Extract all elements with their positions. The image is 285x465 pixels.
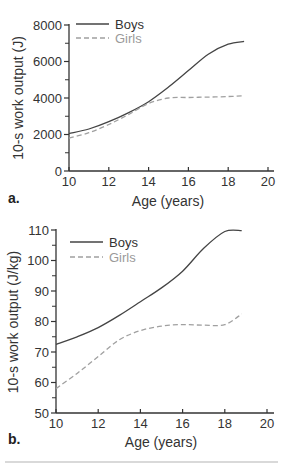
- y-tick-label: 4000: [33, 91, 62, 106]
- chart-b-x-ticks: 101214161820: [49, 409, 274, 431]
- chart-b: 5060708090100110 101214161820 10-s work …: [5, 223, 274, 451]
- y-tick-label: 80: [35, 314, 49, 329]
- legend-girls-label: Girls: [109, 250, 136, 265]
- x-tick-label: 18: [218, 416, 232, 431]
- figure: 02000400060008000 101214161820 10-s work…: [0, 0, 285, 465]
- x-tick-label: 12: [102, 174, 116, 189]
- x-tick-label: 18: [221, 174, 235, 189]
- y-tick-label: 8000: [33, 18, 62, 33]
- x-tick-label: 14: [133, 416, 147, 431]
- chart-b-y-label: 10-s work output (J/kg): [5, 251, 21, 393]
- chart-a-x-ticks: 101214161820: [62, 167, 275, 189]
- chart-b-girls-line: [56, 314, 242, 389]
- legend-girls-label: Girls: [115, 31, 142, 46]
- y-tick-label: 90: [35, 284, 49, 299]
- y-tick-label: 70: [35, 345, 49, 360]
- chart-a-boys-line: [69, 41, 244, 133]
- x-tick-label: 20: [261, 174, 275, 189]
- y-tick-label: 2000: [33, 127, 62, 142]
- chart-a: 02000400060008000 101214161820 10-s work…: [8, 17, 275, 209]
- chart-b-panel-label: b.: [8, 431, 20, 447]
- legend-boys-label: Boys: [115, 17, 144, 32]
- chart-a-girls-line: [69, 96, 244, 138]
- chart-b-x-label: Age (years): [125, 434, 197, 450]
- chart-a-y-ticks: 02000400060008000: [33, 18, 69, 179]
- y-tick-label: 60: [35, 375, 49, 390]
- chart-a-panel-label: a.: [8, 190, 20, 206]
- x-tick-label: 16: [181, 174, 195, 189]
- y-tick-label: 50: [35, 406, 49, 421]
- chart-a-x-label: Age (years): [132, 193, 204, 209]
- x-tick-label: 10: [62, 174, 76, 189]
- x-tick-label: 10: [49, 416, 63, 431]
- x-tick-label: 20: [260, 416, 274, 431]
- chart-a-y-label: 10-s work output (J): [10, 36, 26, 160]
- y-tick-label: 6000: [33, 54, 62, 69]
- legend-boys-label: Boys: [109, 235, 138, 250]
- chart-b-y-ticks: 5060708090100110: [27, 223, 56, 421]
- x-tick-label: 14: [141, 174, 155, 189]
- y-tick-label: 110: [28, 223, 49, 238]
- chart-b-boys-line: [56, 230, 242, 344]
- x-tick-label: 16: [175, 416, 189, 431]
- x-tick-label: 12: [91, 416, 105, 431]
- y-tick-label: 100: [27, 253, 49, 268]
